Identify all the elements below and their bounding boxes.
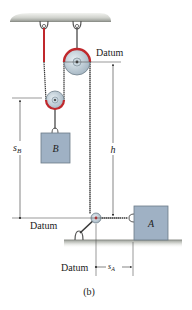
middle-hook-icon	[73, 21, 81, 29]
dimension-sb: sB	[11, 100, 27, 219]
block-a-label: A	[147, 218, 155, 229]
block-b-label: B	[52, 143, 58, 154]
h-label: h	[111, 144, 116, 155]
block-b: B	[41, 128, 70, 163]
left-hook-icon	[40, 21, 48, 29]
figure-caption: (b)	[83, 286, 95, 298]
dimension-h: h	[108, 64, 118, 216]
dimension-sa: sA	[95, 261, 132, 272]
block-a: A	[129, 206, 168, 240]
lower-pulley	[46, 91, 64, 109]
datum-left-label: Datum	[30, 220, 57, 231]
datum-top-label: Datum	[96, 47, 123, 58]
pulley-system-diagram: B A h sB	[0, 0, 192, 310]
datum-bottom-label: Datum	[61, 262, 88, 273]
ceiling	[10, 13, 111, 22]
ground	[64, 240, 182, 248]
